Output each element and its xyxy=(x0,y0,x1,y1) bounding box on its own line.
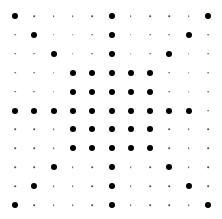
large-dot xyxy=(166,51,172,57)
large-dot xyxy=(89,126,95,132)
small-dot xyxy=(149,204,151,206)
small-dot xyxy=(188,166,190,168)
large-dot xyxy=(109,183,115,189)
small-dot xyxy=(207,148,209,150)
large-dot xyxy=(89,70,95,76)
small-dot xyxy=(169,148,171,150)
small-dot xyxy=(34,53,36,55)
small-dot xyxy=(169,91,171,93)
small-dot xyxy=(14,34,16,36)
small-dot xyxy=(34,72,36,74)
small-dot xyxy=(149,34,151,36)
small-dot xyxy=(130,15,132,17)
large-dot xyxy=(205,13,211,19)
large-dot xyxy=(31,183,37,189)
small-dot xyxy=(91,34,93,36)
large-dot xyxy=(205,202,211,208)
large-dot xyxy=(128,126,134,132)
large-dot xyxy=(12,202,18,208)
small-dot xyxy=(188,53,190,55)
small-dot xyxy=(169,72,171,74)
small-dot xyxy=(53,185,55,187)
small-dot xyxy=(149,15,151,17)
large-dot xyxy=(166,108,172,114)
small-dot xyxy=(14,148,16,150)
small-dot xyxy=(207,110,209,112)
small-dot xyxy=(34,204,36,206)
large-dot xyxy=(147,89,153,95)
large-dot xyxy=(109,145,115,151)
large-dot xyxy=(109,202,115,208)
large-dot xyxy=(128,89,134,95)
small-dot xyxy=(34,166,36,168)
small-dot xyxy=(91,15,93,17)
large-dot xyxy=(70,126,76,132)
small-dot xyxy=(34,129,36,131)
large-dot xyxy=(109,89,115,95)
large-dot xyxy=(109,13,115,19)
small-dot xyxy=(149,166,151,168)
large-dot xyxy=(186,183,192,189)
small-dot xyxy=(130,53,132,55)
large-dot xyxy=(31,32,37,38)
small-dot xyxy=(14,129,16,131)
small-dot xyxy=(207,129,209,131)
small-dot xyxy=(14,166,16,168)
large-dot xyxy=(109,108,115,114)
small-dot xyxy=(72,34,74,36)
large-dot xyxy=(109,70,115,76)
small-dot xyxy=(169,129,171,131)
large-dot xyxy=(128,70,134,76)
large-dot xyxy=(89,89,95,95)
large-dot xyxy=(186,32,192,38)
small-dot xyxy=(91,166,93,168)
small-dot xyxy=(53,34,55,36)
small-dot xyxy=(130,34,132,36)
large-dot xyxy=(109,164,115,170)
large-dot xyxy=(12,108,18,114)
small-dot xyxy=(14,185,16,187)
large-dot xyxy=(70,89,76,95)
large-dot xyxy=(51,108,57,114)
large-dot xyxy=(128,145,134,151)
small-dot xyxy=(169,185,171,187)
small-dot xyxy=(188,91,190,93)
large-dot xyxy=(147,108,153,114)
small-dot xyxy=(149,185,151,187)
small-dot xyxy=(53,129,55,131)
large-dot xyxy=(89,145,95,151)
small-dot xyxy=(149,53,151,55)
small-dot xyxy=(207,34,209,36)
large-dot xyxy=(70,70,76,76)
large-dot xyxy=(70,108,76,114)
dot-grid-diagram xyxy=(0,0,222,219)
large-dot xyxy=(186,108,192,114)
large-dot xyxy=(51,164,57,170)
small-dot xyxy=(207,185,209,187)
small-dot xyxy=(91,204,93,206)
small-dot xyxy=(53,15,55,17)
large-dot xyxy=(109,32,115,38)
small-dot xyxy=(14,91,16,93)
small-dot xyxy=(72,15,74,17)
small-dot xyxy=(188,129,190,131)
large-dot xyxy=(147,126,153,132)
large-dot xyxy=(31,108,37,114)
small-dot xyxy=(34,91,36,93)
large-dot xyxy=(70,145,76,151)
small-dot xyxy=(188,204,190,206)
small-dot xyxy=(72,166,74,168)
small-dot xyxy=(91,53,93,55)
large-dot xyxy=(109,126,115,132)
large-dot xyxy=(12,13,18,19)
small-dot xyxy=(72,185,74,187)
large-dot xyxy=(128,108,134,114)
small-dot xyxy=(188,148,190,150)
small-dot xyxy=(207,91,209,93)
small-dot xyxy=(91,185,93,187)
small-dot xyxy=(34,15,36,17)
small-dot xyxy=(72,204,74,206)
large-dot xyxy=(109,51,115,57)
large-dot xyxy=(51,51,57,57)
small-dot xyxy=(53,204,55,206)
